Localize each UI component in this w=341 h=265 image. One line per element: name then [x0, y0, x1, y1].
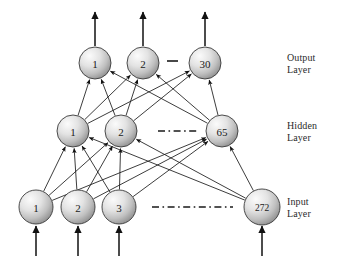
node-input-1: 1: [19, 190, 53, 224]
output-layer-caption: Output Layer: [287, 52, 315, 75]
node-input-3: 3: [102, 190, 136, 224]
node-output-2: 2: [127, 47, 159, 79]
node-output-30: 30: [189, 47, 221, 79]
input-layer-caption: Input Layer: [287, 196, 311, 219]
hidden-layer-caption: Hidden Layer: [287, 120, 317, 143]
node-hidden-65: 65: [206, 115, 238, 147]
node-input-2: 2: [61, 190, 95, 224]
node-output-1: 1: [79, 47, 111, 79]
node-hidden-2: 2: [105, 115, 137, 147]
node-hidden-1: 1: [57, 115, 89, 147]
node-input-272: 272: [244, 189, 280, 225]
neural-network-diagram: 12301265123272 Output Layer Hidden Layer…: [0, 0, 341, 265]
